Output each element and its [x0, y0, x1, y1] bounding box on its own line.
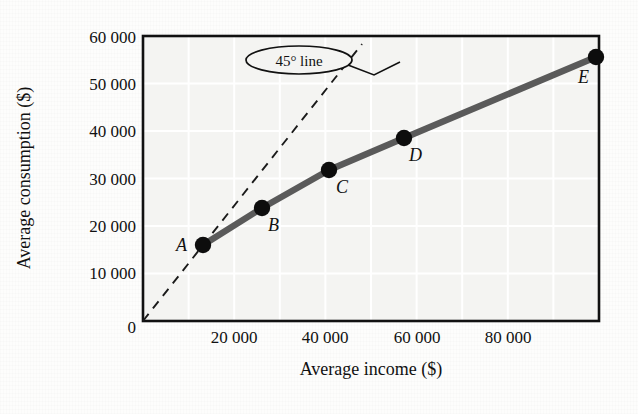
consumption-function-chart: A B C D E 45° line 60 000 50 000 40 000 …: [0, 0, 638, 414]
data-point-c[interactable]: [321, 162, 337, 178]
x-tick-label-80000: 80 000: [485, 328, 532, 347]
x-tick-label-60000: 60 000: [394, 328, 441, 347]
x-tick-label-20000: 20 000: [211, 328, 258, 347]
data-point-label-b: B: [268, 215, 279, 235]
data-point-label-d: D: [408, 145, 422, 165]
figure-container: A B C D E 45° line 60 000 50 000 40 000 …: [0, 0, 638, 414]
data-point-b[interactable]: [254, 200, 270, 216]
y-tick-label-20000: 20 000: [89, 217, 136, 236]
y-tick-label-30000: 30 000: [89, 170, 136, 189]
x-tick-label-40000: 40 000: [302, 328, 349, 347]
callout-label-text: 45° line: [275, 53, 323, 69]
data-point-label-e: E: [577, 67, 589, 87]
x-axis-title: Average income ($): [300, 359, 443, 380]
y-axis-tick-labels: 60 000 50 000 40 000 30 000 20 000 10 00…: [89, 28, 136, 337]
data-point-e[interactable]: [588, 49, 604, 65]
y-tick-label-50000: 50 000: [89, 75, 136, 94]
y-tick-label-0: 0: [128, 318, 137, 337]
data-point-d[interactable]: [396, 130, 412, 146]
y-tick-label-10000: 10 000: [89, 264, 136, 283]
y-tick-label-40000: 40 000: [89, 122, 136, 141]
x-axis-tick-labels: 20 000 40 000 60 000 80 000: [211, 328, 532, 347]
y-tick-label-60000: 60 000: [89, 28, 136, 47]
data-point-a[interactable]: [195, 237, 211, 253]
data-point-label-c: C: [336, 177, 349, 197]
data-point-label-a: A: [175, 235, 188, 255]
y-axis-title: Average consumption ($): [14, 87, 35, 270]
